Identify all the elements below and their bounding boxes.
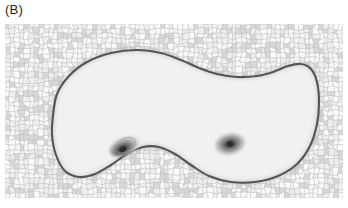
mesh-cell: [8, 105, 14, 112]
mesh-cell: [277, 53, 281, 58]
mesh-cell: [250, 61, 258, 68]
panel-label: (B): [5, 1, 23, 19]
mesh-cell: [59, 193, 64, 198]
mesh-cell: [153, 182, 161, 189]
mesh-cell: [63, 184, 68, 190]
mesh-cell: [173, 175, 180, 180]
mesh-cell: [270, 58, 277, 62]
mesh-cell: [189, 32, 195, 39]
mesh-cell: [18, 24, 23, 30]
mesh-cell: [72, 32, 77, 38]
mesh-cell: [38, 129, 44, 137]
mesh-cell: [329, 148, 335, 155]
mesh-cell: [212, 62, 217, 69]
mesh-cell: [139, 173, 145, 180]
mesh-cell: [135, 24, 139, 29]
mesh-cell: [159, 43, 164, 50]
mesh-cell: [265, 52, 270, 58]
mesh-cell: [262, 34, 267, 40]
mesh-cell: [28, 192, 34, 199]
figure-root: (B): [0, 0, 348, 208]
mesh-cell: [139, 194, 146, 198]
mesh-cell: [327, 119, 333, 127]
mesh-cell: [120, 28, 125, 35]
mesh-cell: [139, 187, 147, 195]
mesh-cell: [63, 192, 68, 198]
mesh-cell: [178, 24, 183, 30]
mesh-cell: [293, 182, 299, 188]
mesh-cell: [57, 182, 63, 189]
mesh-cell: [140, 153, 144, 159]
mesh-cell: [337, 145, 343, 151]
mesh-cell: [339, 135, 343, 141]
mesh-cell: [15, 172, 18, 179]
mesh-cell: [37, 165, 45, 169]
mesh-cell: [235, 192, 241, 198]
mesh-cell: [197, 194, 204, 199]
mesh-cell: [317, 150, 325, 156]
mesh-cell: [276, 38, 280, 43]
mesh-cell: [270, 193, 276, 198]
mesh-cell: [173, 168, 181, 175]
mesh-cell: [23, 49, 30, 54]
mesh-cell: [270, 52, 277, 58]
mesh-cell: [19, 193, 26, 198]
mesh-cell: [318, 24, 323, 31]
mesh-cell: [150, 169, 157, 175]
mesh-cell: [19, 125, 26, 131]
mesh-cell: [105, 43, 112, 49]
mesh-cell: [338, 192, 343, 198]
mesh-cell: [235, 57, 240, 62]
mesh-cell: [338, 182, 343, 190]
mesh-cell: [298, 44, 306, 49]
simulation-plot-svg: [5, 24, 343, 198]
mesh-cell: [58, 189, 63, 194]
mesh-cell: [198, 28, 205, 34]
mesh-cell: [34, 191, 41, 198]
mesh-cell: [303, 160, 310, 164]
plot-panel: [5, 24, 343, 198]
mesh-cell: [5, 71, 11, 77]
mesh-cell: [317, 173, 325, 178]
mesh-cell: [57, 175, 63, 181]
mesh-cell: [327, 92, 335, 97]
mesh-cell: [267, 24, 273, 29]
mesh-cell: [111, 43, 117, 49]
